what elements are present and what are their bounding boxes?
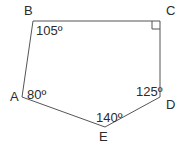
vertex-label-e: E [99,130,108,143]
right-angle-square-icon [152,21,160,29]
angle-label-e: 140º [96,111,122,124]
angle-label-d: 125º [136,85,162,98]
angle-label-b: 105º [36,24,62,37]
vertex-label-b: B [24,4,33,17]
pentagon-drawing [0,0,187,150]
angle-label-a: 80º [27,88,46,101]
geometry-figure: A B C D E 80º 105º 125º 140º [0,0,187,150]
vertex-label-a: A [10,90,19,103]
vertex-label-d: D [166,98,175,111]
vertex-label-c: C [166,4,175,17]
